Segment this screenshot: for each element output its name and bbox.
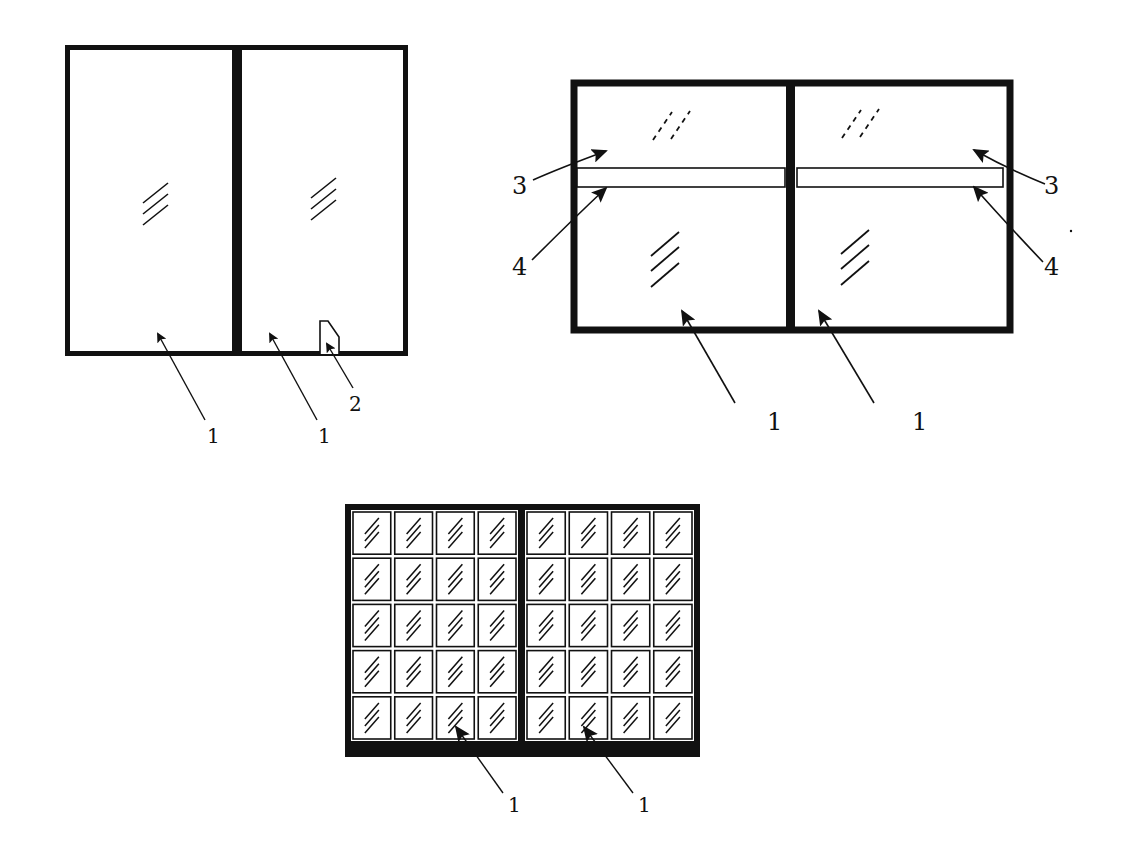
glass-hatch-icon — [841, 230, 869, 285]
dashed-glass-hatch-icon — [842, 109, 879, 138]
leader-line — [158, 334, 205, 420]
reference-label: 1 — [318, 424, 331, 448]
reference-label: 4 — [512, 253, 527, 281]
leader-line — [532, 188, 606, 260]
leader-line — [270, 334, 317, 420]
reference-label: 4 — [1044, 253, 1059, 281]
leader-line — [819, 311, 874, 403]
transom-strip — [577, 168, 785, 187]
figure-b: 3 4 3 4 1 1 — [512, 80, 1072, 436]
mullion — [518, 504, 525, 744]
patent-drawing: 1 1 2 — [0, 0, 1124, 854]
reference-label: 3 — [512, 172, 527, 200]
reference-label: 1 — [912, 408, 927, 436]
reference-label: 1 — [638, 793, 651, 817]
leader-line — [327, 344, 353, 388]
mullion — [232, 47, 242, 356]
figure-c: 1 1 — [345, 504, 700, 817]
transom-strip — [797, 168, 1003, 187]
reference-label: 1 — [207, 424, 220, 448]
glass-hatch-icon — [143, 183, 168, 225]
reference-label: 2 — [349, 392, 362, 416]
leader-line — [682, 311, 735, 403]
speck — [1070, 230, 1072, 232]
reference-label: 1 — [508, 793, 521, 817]
reference-label: 3 — [1044, 172, 1059, 200]
dashed-glass-hatch-icon — [653, 111, 690, 140]
mullion — [786, 80, 795, 333]
reference-label: 1 — [767, 408, 782, 436]
glass-hatch-icon — [311, 178, 336, 220]
glass-hatch-icon — [651, 232, 679, 287]
figure-a: 1 1 2 — [68, 47, 406, 448]
